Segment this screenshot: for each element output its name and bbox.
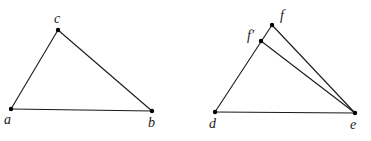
point-e [353, 111, 357, 115]
triangle-abc: a b c [4, 11, 155, 130]
point-b [150, 109, 154, 113]
label-b: b [148, 115, 155, 130]
edge-bc [58, 30, 152, 111]
point-c [56, 28, 60, 32]
edge-ab [11, 109, 152, 111]
label-fprime: f′ [247, 28, 255, 43]
label-a: a [4, 112, 11, 127]
label-c: c [54, 11, 61, 26]
point-d [213, 110, 217, 114]
edge-fprime-e [261, 41, 355, 113]
edge-fe [272, 25, 355, 113]
edge-df [215, 25, 272, 112]
label-f: f [280, 8, 286, 23]
point-a [9, 107, 13, 111]
point-fprime [259, 39, 263, 43]
label-d: d [209, 116, 217, 131]
diagram-canvas: a b c d e f f′ [0, 0, 371, 141]
geometry-figure: a b c d e f f′ [0, 0, 371, 141]
edge-de [215, 112, 355, 113]
edge-ca [11, 30, 58, 109]
point-f [270, 23, 274, 27]
label-e: e [350, 117, 356, 132]
triangle-def-with-fprime: d e f f′ [209, 8, 357, 132]
